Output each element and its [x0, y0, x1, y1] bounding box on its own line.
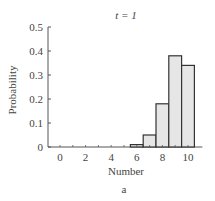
y-tick-label: 0.5	[29, 21, 43, 33]
x-tick-label: 8	[160, 151, 166, 163]
y-tick-label: 0	[38, 141, 44, 153]
x-tick-label: 2	[83, 151, 89, 163]
bar-10	[182, 65, 195, 147]
x-tick-label: 10	[183, 151, 195, 163]
bar-9	[169, 56, 182, 147]
chart-title: t = 1	[115, 9, 136, 21]
x-axis-label: Number	[108, 165, 144, 177]
y-axis-label: Probability	[6, 65, 18, 114]
x-tick-label: 6	[134, 151, 140, 163]
y-tick-label: 0.3	[29, 69, 43, 81]
x-tick-label: 0	[57, 151, 63, 163]
bar-8	[156, 104, 169, 147]
probability-bar-chart: 00.10.20.30.40.50246810t = 1NumberProbab…	[0, 0, 215, 201]
y-tick-label: 0.1	[29, 117, 43, 129]
y-tick-label: 0.4	[29, 45, 43, 57]
figure-caption: a	[122, 183, 127, 195]
x-tick-label: 4	[108, 151, 114, 163]
y-tick-label: 0.2	[29, 93, 43, 105]
